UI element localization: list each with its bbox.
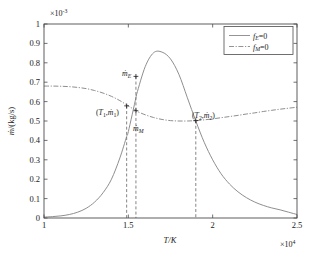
y-tick-label-1: 0.1 (29, 194, 40, 204)
y-multiplier-exponent: -3 (63, 8, 68, 14)
legend-fE-equals: =0 (259, 32, 268, 41)
y-tick-label-0: 0 (36, 213, 40, 223)
y-axis-title-unit: /(kg/s) (6, 107, 16, 129)
x-tick-label-1: 1.5 (123, 220, 134, 230)
y-tick-label-9: 0.9 (29, 38, 40, 48)
y-tick-label-4: 0.4 (29, 135, 40, 145)
chart-figure: 1 1.5 2 2.5 0 0.1 0.2 0.3 0.4 0.5 0.6 0.… (0, 0, 313, 256)
annotation-T2-m2: (T2,ṁ2) (192, 111, 215, 121)
x-tick-label-2: 2 (211, 220, 215, 230)
annotation-T1-m1: (T1,ṁ1) (96, 108, 119, 118)
y-tick-label-8: 0.8 (29, 58, 40, 68)
legend-fM-equals: =0 (260, 43, 269, 52)
x-multiplier-exponent: 4 (293, 239, 296, 245)
y-tick-label-5: 0.5 (29, 116, 40, 126)
annot2-sub: E (127, 73, 132, 79)
legend-label-fE: fE=0 (253, 32, 267, 42)
legend: fE=0 fM=0 (224, 27, 293, 55)
y-multiplier-base: ×10 (50, 9, 63, 18)
x-axis-title: T/K (164, 235, 178, 245)
y-tick-label-3: 0.3 (29, 155, 40, 165)
y-axis-title: ṁ/(kg/s) (6, 107, 16, 136)
y-tick-label-7: 0.7 (29, 77, 40, 87)
x-tick-label-3: 2.5 (292, 220, 303, 230)
annot4-close: ) (212, 111, 215, 120)
y-axis-multiplier: ×10-3 (50, 8, 67, 18)
y-tick-label-10: 1 (36, 19, 40, 29)
y-tick-label-6: 0.6 (29, 97, 40, 107)
y-tick-label-2: 0.2 (29, 174, 40, 184)
x-multiplier-base: ×10 (280, 240, 293, 249)
x-axis-multiplier: ×104 (280, 239, 296, 249)
annot1-close: ) (116, 108, 119, 117)
plot-canvas: 1 1.5 2 2.5 0 0.1 0.2 0.3 0.4 0.5 0.6 0.… (0, 0, 313, 256)
x-tick-label-0: 1 (42, 220, 46, 230)
